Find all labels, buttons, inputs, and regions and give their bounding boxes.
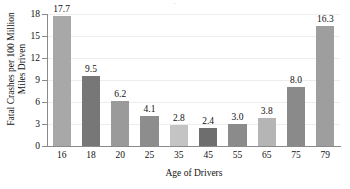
y-tick-label: 18 [19, 9, 40, 19]
x-tick-label: 16 [47, 150, 76, 161]
x-axis-line [47, 146, 341, 147]
bar-value-label: 6.2 [106, 89, 135, 99]
y-tick-label: 12 [19, 53, 40, 63]
bar-value-label: 9.5 [76, 64, 105, 74]
bar [53, 16, 71, 146]
bar-value-label: 8.0 [281, 75, 310, 85]
y-axis-title-line2: Miles Driven [17, 4, 28, 134]
bar [287, 87, 305, 146]
bar-value-label: 2.4 [194, 116, 223, 126]
bar-value-label: 17.7 [47, 4, 76, 14]
bar-value-label: 2.8 [164, 113, 193, 123]
x-tick-label: 55 [223, 150, 252, 161]
x-tick-label: 45 [194, 150, 223, 161]
x-tick-label: 65 [252, 150, 281, 161]
bar [140, 116, 158, 146]
x-tick-label: 25 [135, 150, 164, 161]
plot-area: 17.79.56.24.12.82.43.03.88.016.3 [47, 14, 340, 146]
y-tick-label: 3 [19, 119, 40, 129]
bar-value-label: 16.3 [311, 14, 340, 24]
bar-value-label: 3.8 [252, 106, 281, 116]
x-tick-label: 75 [281, 150, 310, 161]
bar [228, 124, 246, 146]
y-tick-label: 6 [19, 97, 40, 107]
y-tick-label: 9 [19, 75, 40, 85]
x-axis-title: Age of Drivers [47, 168, 341, 179]
x-tick-label: 20 [106, 150, 135, 161]
y-axis-title: Fatal Crashes per 100 Million Miles Driv… [6, 4, 28, 134]
bar-chart: · Fatal Crashes per 100 Million Miles Dr… [0, 0, 350, 189]
x-tick-label: 35 [164, 150, 193, 161]
bar-value-label: 4.1 [135, 104, 164, 114]
x-tick-label: 18 [76, 150, 105, 161]
bar-value-label: 3.0 [223, 112, 252, 122]
bar [316, 26, 334, 146]
bar [111, 101, 129, 146]
y-tick-label: 0 [19, 141, 40, 151]
bar [170, 125, 188, 146]
bar [199, 128, 217, 146]
bar [258, 118, 276, 146]
x-tick-label: 79 [311, 150, 340, 161]
y-tick-label: 15 [19, 31, 40, 41]
y-axis-title-line1: Fatal Crashes per 100 Million [6, 12, 16, 125]
bar [82, 76, 100, 146]
